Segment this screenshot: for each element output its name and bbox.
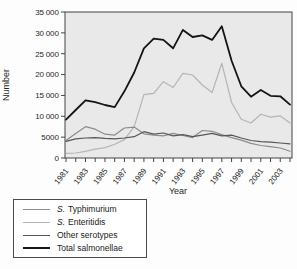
legend-label-text: Total salmonellae <box>57 243 123 253</box>
x-tick-label: 2001 <box>247 166 265 186</box>
legend-label: S.Typhimurium <box>57 204 117 215</box>
legend-label: Total salmonellae <box>57 243 123 254</box>
y-tick-label: 0 <box>55 154 60 163</box>
legend-line-swatch <box>23 247 50 249</box>
y-tick-label: 30 000 <box>35 29 59 38</box>
y-tick-label: 20 000 <box>35 70 59 79</box>
y-tick-label: 10 000 <box>35 112 59 121</box>
x-tick-label: 1995 <box>189 166 207 186</box>
x-tick-label: 1989 <box>130 166 148 186</box>
legend-label-text: Enteritidis <box>68 217 105 227</box>
legend-item: S.Enteritidis <box>23 217 141 228</box>
x-axis-title: Year <box>169 186 187 196</box>
legend-label: S.Enteritidis <box>57 217 105 228</box>
plot-area <box>65 12 292 158</box>
x-tick-label: 1997 <box>208 166 226 186</box>
y-tick-label: 35 000 <box>35 8 59 17</box>
legend-label-text: Typhimurium <box>68 204 117 214</box>
legend-item: S.Typhimurium <box>23 204 141 215</box>
y-tick-label: 15 000 <box>35 91 59 100</box>
legend-label-text: Other serotypes <box>57 230 117 240</box>
x-tick-label: 1993 <box>169 166 187 186</box>
legend-line-swatch <box>23 209 50 210</box>
legend-line-swatch <box>23 235 50 236</box>
legend-item: Other serotypes <box>23 230 141 241</box>
salmonella-chart: Number Year 0500010 00015 00020 00025 00… <box>0 0 297 198</box>
legend-item: Total salmonellae <box>23 243 141 254</box>
legend-line-swatch <box>23 222 50 223</box>
legend-label: Other serotypes <box>57 230 117 241</box>
x-tick-label: 1983 <box>72 166 90 186</box>
y-tick-label: 5000 <box>41 133 59 142</box>
salmonella-figure: Number Year 0500010 00015 00020 00025 00… <box>0 0 297 269</box>
y-axis-title: Number <box>1 69 11 101</box>
legend-label-genus: S. <box>57 204 65 214</box>
x-tick-label: 1999 <box>228 166 246 186</box>
y-tick-label: 25 000 <box>35 50 59 59</box>
x-tick-label: 1991 <box>150 166 168 186</box>
x-tick-label: 1985 <box>91 166 109 186</box>
legend: S.Typhimurium S.Enteritidis Other seroty… <box>13 199 147 258</box>
x-tick-label: 1987 <box>111 166 129 186</box>
x-tick-label: 1981 <box>53 166 71 186</box>
legend-label-genus: S. <box>57 217 65 227</box>
x-tick-label: 2003 <box>267 166 285 186</box>
